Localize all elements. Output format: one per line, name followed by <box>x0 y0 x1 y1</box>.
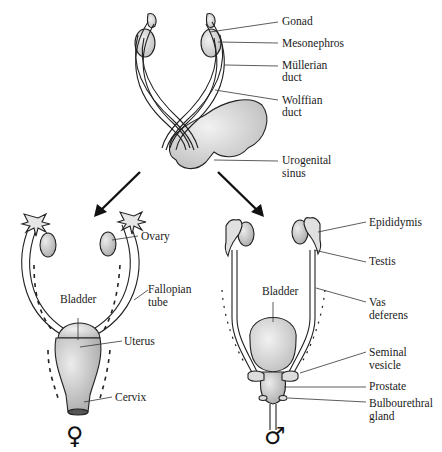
label-urogenital-sinus-line2: sinus <box>282 167 306 180</box>
label-vas-deferens-line1: Vas <box>369 296 386 309</box>
label-mullerian-duct-line2: duct <box>282 71 302 84</box>
development-arrows <box>94 172 264 217</box>
label-cervix: Cervix <box>115 391 146 404</box>
label-uterus: Uterus <box>124 335 155 348</box>
label-wolffian-duct-line2: duct <box>282 106 302 119</box>
label-fallopian-tube-line1: Fallopian <box>148 283 191 296</box>
female-symbol-icon: ♀ <box>66 424 84 448</box>
label-urogenital-sinus-line1: Urogenital <box>282 154 331 167</box>
label-seminal-vesicle-line2: vesicle <box>369 359 401 372</box>
label-ovary: Ovary <box>141 230 170 243</box>
indifferent-stage-drawing <box>135 14 267 169</box>
label-vas-deferens-line2: deferens <box>369 309 408 322</box>
label-epididymis: Epididymis <box>369 216 422 229</box>
female-drawing <box>22 212 146 415</box>
label-prostate: Prostate <box>369 380 406 393</box>
label-fallopian-tube-line2: tube <box>148 296 168 309</box>
label-mesonephros: Mesonephros <box>282 37 344 50</box>
label-bulbourethral-gland-line1: Bulbourethral <box>369 397 433 410</box>
label-bulbourethral-gland-line2: gland <box>369 410 395 423</box>
male-drawing <box>222 218 325 430</box>
male-symbol-icon: ♂ <box>264 424 286 448</box>
label-bladder-female: Bladder <box>60 293 96 306</box>
label-gonad: Gonad <box>282 15 313 28</box>
label-seminal-vesicle-line1: Seminal <box>369 346 407 359</box>
label-bladder-male: Bladder <box>262 285 298 298</box>
label-testis: Testis <box>369 255 396 268</box>
